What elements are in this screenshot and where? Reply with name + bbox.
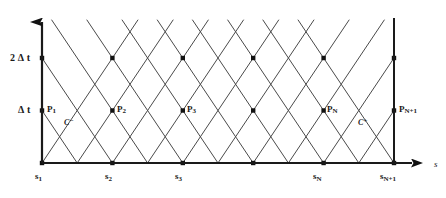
grid-node-PN	[321, 108, 325, 112]
tick-s1: s1	[35, 172, 42, 183]
grid-node-9	[251, 108, 255, 112]
grid-node-P2	[110, 108, 114, 112]
characteristic-line-cplus-0	[42, 20, 138, 163]
grid-node-13	[110, 56, 114, 60]
grid-node-15	[251, 56, 255, 60]
characteristic-line-cplus-6	[77, 20, 173, 163]
tick-s3: s3	[175, 172, 182, 183]
characteristic-line-cplus-9	[288, 20, 384, 163]
level-2dt: 2 Δ t	[10, 53, 31, 63]
characteristic-line-cplus-8	[218, 20, 314, 163]
characteristic-line-cplus-7	[148, 20, 244, 163]
grid-node-16	[321, 56, 325, 60]
tick-s2: s2	[105, 172, 112, 183]
characteristic-c-minus: C−	[64, 118, 74, 127]
characteristic-line-cplus-2	[183, 20, 279, 163]
characteristic-grid-figure: 2 Δ tΔ t s1s2s3sNsN+1 P1P2P3PNPN+1 C−C+ …	[0, 0, 446, 198]
grid-node-14	[181, 56, 185, 60]
characteristic-line-cplus-3	[253, 20, 349, 163]
characteristic-line-cminus-2	[87, 20, 183, 163]
characteristic-line-cminus-8	[122, 20, 218, 163]
characteristic-line-cminus-7	[52, 20, 148, 163]
grid-diagram-svg	[0, 0, 446, 198]
point-P2: P2	[117, 105, 126, 115]
characteristic-line-cplus-1	[112, 20, 208, 163]
characteristic-lines-group	[42, 20, 394, 163]
tick-sN1: sN+1	[380, 172, 396, 183]
point-P3: P3	[187, 105, 196, 115]
tick-sN: sN	[313, 172, 322, 183]
s-axis-label: s	[434, 160, 438, 169]
characteristic-line-cminus-9	[193, 20, 289, 163]
characteristic-line-cminus-4	[228, 20, 324, 163]
point-P1: P1	[47, 105, 56, 115]
grid-node-P3	[181, 108, 185, 112]
point-PN1: PN+1	[399, 105, 417, 115]
level-dt: Δ t	[18, 105, 31, 115]
point-PN: PN	[327, 105, 338, 115]
characteristic-c-plus: C+	[358, 118, 367, 127]
characteristic-line-cminus-3	[157, 20, 253, 163]
characteristic-line-cminus-10	[263, 20, 359, 163]
characteristic-line-cminus-5	[298, 20, 394, 163]
